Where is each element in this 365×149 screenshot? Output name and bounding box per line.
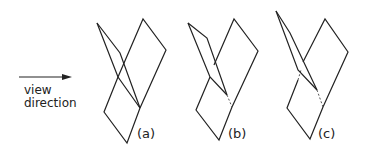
view-direction-line2: direction (24, 97, 77, 110)
panel-b-label: (b) (228, 126, 246, 141)
panel-a-figure (97, 19, 166, 143)
panel-c-figure (276, 11, 348, 139)
view-direction-arrow (19, 74, 72, 80)
panel-b-figure (188, 19, 258, 140)
diagram-canvas (0, 0, 365, 149)
panel-a-label: (a) (137, 126, 155, 141)
view-direction-label: view direction (24, 84, 77, 110)
panel-c-label: (c) (318, 126, 335, 141)
